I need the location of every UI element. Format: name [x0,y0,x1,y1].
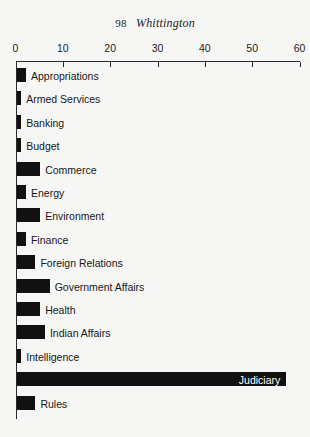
bar-label: Appropriations [31,69,99,83]
bar [17,232,26,246]
bar [17,138,22,152]
bar-label: Judiciary [17,373,287,387]
bar [17,91,22,105]
bar-label: Rules [40,397,67,411]
bar [17,302,41,316]
bar [17,349,22,363]
bar-chart: 0102030405060AppropriationsArmed Service… [0,0,310,437]
bar [17,185,26,199]
x-axis-tick-label: 50 [246,42,258,54]
bar [17,208,41,222]
bar-label: Government Affairs [55,280,145,294]
bar-label: Foreign Relations [40,256,122,270]
bar-label: Banking [26,116,64,130]
bar [17,255,36,269]
bar [17,162,41,176]
bar-label: Commerce [45,163,96,177]
x-axis-tick-label: 20 [104,42,116,54]
bar-label: Environment [45,209,104,223]
bar-label: Budget [26,139,59,153]
x-axis-tick-label: 60 [294,42,306,54]
x-axis-tick-label: 0 [13,42,19,54]
x-axis-tick-mark [252,62,253,67]
bar-label: Finance [31,233,68,247]
x-axis-tick-mark [300,62,301,67]
x-axis-tick-mark [63,62,64,67]
x-axis-tick-label: 10 [57,42,69,54]
bar-label: Indian Affairs [50,326,111,340]
x-axis-tick-mark [110,62,111,67]
page: 98Whittington 0102030405060Appropriation… [0,0,310,437]
x-axis-tick-mark [158,62,159,67]
x-axis-tick-mark [205,62,206,67]
x-axis-tick-label: 30 [152,42,164,54]
bar-label: Armed Services [26,92,100,106]
bar [17,325,45,339]
x-axis-tick-label: 40 [199,42,211,54]
bar-label: Energy [31,186,64,200]
bar [17,396,36,410]
bar [17,68,26,82]
bar [17,115,22,129]
bar [17,279,50,293]
bar-label: Intelligence [26,350,79,364]
bar-label: Health [45,303,75,317]
